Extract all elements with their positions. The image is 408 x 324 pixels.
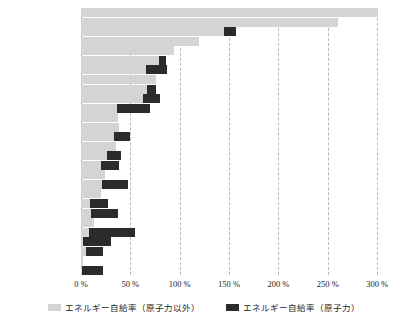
bar-row: ノルウェー [81,8,387,17]
legend-swatch-black-icon [226,304,239,311]
bar-segment-non-nuclear [81,180,102,189]
bar-row: カナダ [81,27,387,36]
legend-swatch-gray-icon [48,304,61,311]
legend-item[interactable]: エネルギー自給率（原子力） [226,301,360,313]
bar-segment-non-nuclear [81,85,147,94]
bar-row: オーストリア [81,123,387,132]
bar-row: アメリカ [81,65,387,74]
bar-row: ポルトガル [81,170,387,179]
bar-segment-non-nuclear [81,27,224,36]
bar-segment-nuclear [86,247,103,256]
bar-segment-nuclear [159,56,166,65]
plot-area: ノルウェーオーストラリアカナダデンマークニュージーランドオランダアメリカポーラン… [81,8,387,275]
bar-segment-non-nuclear [81,151,107,160]
bar-segment-non-nuclear [81,161,101,170]
bar-segment-nuclear [83,237,111,246]
bar-row: アイルランド [81,218,387,227]
bar-segment-non-nuclear [81,18,338,27]
bar-segment-non-nuclear [81,218,94,227]
bar-segment-non-nuclear [81,37,199,46]
bar-row: ドイツ [81,151,387,160]
bar-segment-non-nuclear [81,170,105,179]
bar-row: イギリス [81,85,387,94]
bar-segment-non-nuclear [81,256,83,265]
energy-self-sufficiency-bar-chart: ノルウェーオーストラリアカナダデンマークニュージーランドオランダアメリカポーラン… [0,0,408,324]
bar-segment-non-nuclear [81,65,146,74]
bar-row: ギリシャ [81,113,387,122]
bar-segment-non-nuclear [81,228,89,237]
bar-segment-nuclear [224,27,236,36]
x-tick-label: 50 % [121,279,139,289]
bar-segment-non-nuclear [81,209,91,218]
bar-row: オーストラリア [81,18,387,27]
bar-row: スロバキア [81,209,387,218]
bar-segment-nuclear [107,151,122,160]
bar-row: ルクセンブルク [81,256,387,265]
bar-segment-nuclear [91,209,119,218]
bar-segment-non-nuclear [81,113,118,122]
bar-row: トルコ [81,142,387,151]
bar-segment-non-nuclear [81,132,114,141]
bar-segment-nuclear [102,180,129,189]
bar-row: イタリア [81,189,387,198]
x-tick-label: 300 % [366,279,388,289]
bar-row: ハンガリー [81,161,387,170]
chart-legend: エネルギー自給率（原子力以外）エネルギー自給率（原子力） [0,301,408,313]
bar-row: スペイン [81,237,387,246]
x-tick-label: 150 % [218,279,240,289]
bar-segment-nuclear [143,94,160,103]
bar-segment-non-nuclear [81,123,119,132]
bar-segment-nuclear [89,228,135,237]
bar-segment-nuclear [147,85,156,94]
bar-row: オランダ [81,56,387,65]
bar-segment-non-nuclear [81,46,174,55]
bar-row: 日本 [81,247,387,256]
bar-row: ニュージーランド [81,46,387,55]
bar-segment-nuclear [90,199,108,208]
x-tick-label: 200 % [267,279,289,289]
bar-row: スウェーデン [81,104,387,113]
bar-row: デンマーク [81,37,387,46]
bar-segment-non-nuclear [81,142,116,151]
bar-segment-non-nuclear [81,56,159,65]
legend-label: エネルギー自給率（原子力） [243,301,360,313]
legend-item[interactable]: エネルギー自給率（原子力以外） [48,301,200,313]
bar-segment-non-nuclear [81,104,117,113]
bar-row: チュコ [81,94,387,103]
bar-segment-non-nuclear [81,94,143,103]
bar-segment-non-nuclear [81,8,378,17]
bar-segment-nuclear [82,266,103,275]
bar-segment-nuclear [114,132,131,141]
bar-segment-nuclear [146,65,167,74]
bar-row: 韓国 [81,266,387,275]
bar-segment-nuclear [117,104,151,113]
bar-row: スイス [81,180,387,189]
bar-segment-non-nuclear [81,189,101,198]
bar-row: ポーランド [81,75,387,84]
bar-row: フィンランド [81,132,387,141]
x-tick-label: 0 % [74,279,87,289]
x-tick-label: 100 % [169,279,191,289]
legend-label: エネルギー自給率（原子力以外） [65,301,200,313]
bar-segment-non-nuclear [81,199,90,208]
bar-row: スペイン [81,199,387,208]
x-tick-label: 250 % [317,279,339,289]
bar-segment-non-nuclear [81,75,156,84]
bar-row: フランス [81,228,387,237]
bar-segment-nuclear [101,161,119,170]
